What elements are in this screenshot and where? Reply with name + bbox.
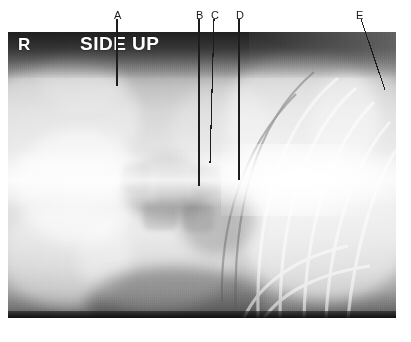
annotated-radiograph-figure: R SIDE UP A B C D E xyxy=(0,0,411,342)
film-grain xyxy=(8,32,396,318)
annotation-label-c[interactable]: C xyxy=(211,10,219,21)
radiograph-plate xyxy=(8,32,396,318)
annotation-label-a[interactable]: A xyxy=(114,10,121,21)
annotation-label-d[interactable]: D xyxy=(236,10,244,21)
annotation-label-e[interactable]: E xyxy=(356,10,363,21)
annotation-label-b[interactable]: B xyxy=(196,10,203,21)
plate-bottom-edge xyxy=(8,311,396,318)
